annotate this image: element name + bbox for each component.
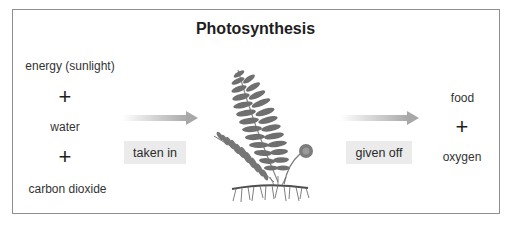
plus-icon: + [452, 116, 472, 138]
arrow-right-icon [340, 111, 419, 125]
output-oxygen: oxygen [437, 150, 487, 164]
plus-icon: + [55, 86, 75, 108]
fern-plant-icon [208, 64, 328, 209]
given-off-label: given off [346, 141, 412, 164]
input-water: water [20, 120, 110, 134]
plus-icon: + [55, 146, 75, 168]
taken-in-label: taken in [124, 141, 186, 164]
diagram-title: Photosynthesis [0, 20, 511, 38]
arrow-right-icon [122, 111, 198, 125]
input-energy: energy (sunlight) [20, 59, 120, 73]
output-food: food [440, 91, 485, 105]
input-carbon-dioxide: carbon dioxide [20, 182, 115, 196]
